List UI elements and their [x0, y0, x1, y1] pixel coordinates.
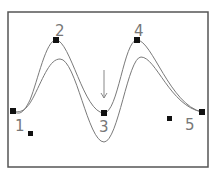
- control-point-5[interactable]: [199, 109, 205, 115]
- arrow-down-icon: [101, 70, 107, 98]
- frame: [8, 12, 208, 167]
- point-label-2: 2: [55, 22, 65, 40]
- control-point-3[interactable]: [101, 110, 107, 116]
- extra-point-a[interactable]: [28, 131, 33, 136]
- point-label-3: 3: [99, 118, 109, 136]
- extra-point-b[interactable]: [167, 116, 172, 121]
- point-label-5: 5: [185, 116, 195, 134]
- spline-diagram: 1 2 3 4 5: [0, 0, 217, 177]
- interpolating-curve: [13, 40, 202, 113]
- point-label-4: 4: [134, 22, 144, 40]
- point-label-1: 1: [15, 117, 25, 135]
- control-point-1[interactable]: [10, 108, 16, 114]
